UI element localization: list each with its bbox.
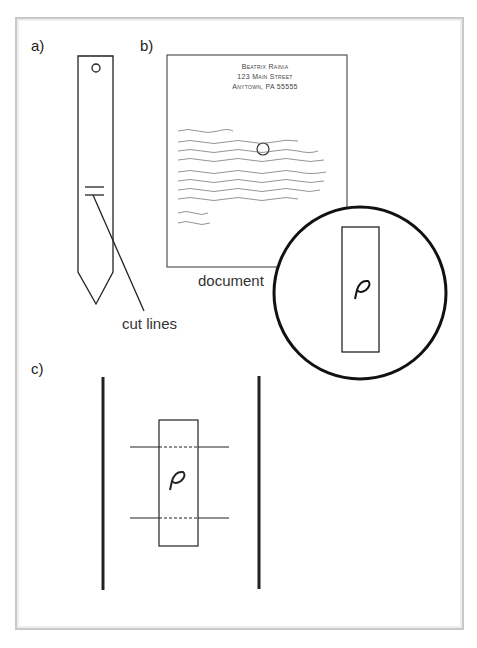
highlight-circle (257, 143, 269, 155)
sample-strip (78, 56, 144, 311)
mounting-assembly (103, 376, 259, 590)
diagram-canvas (0, 0, 477, 648)
letterhead: Beatrix Rainia 123 Main Street Anytown, … (164, 62, 366, 92)
sender-name: Beatrix Rainia (164, 62, 366, 72)
panel-label-b: b) (140, 37, 153, 54)
cut-lines-label: cut lines (122, 315, 177, 332)
magnifier (274, 207, 446, 379)
sender-street: 123 Main Street (164, 72, 366, 82)
sender-city: Anytown, PA 55555 (164, 82, 366, 92)
magnifier-circle (274, 207, 446, 379)
panel-label-a: a) (31, 37, 44, 54)
panel-label-c: c) (31, 360, 44, 377)
handwriting-scribbles (178, 130, 326, 225)
document-label: document (198, 272, 264, 289)
hole-icon (92, 64, 100, 72)
